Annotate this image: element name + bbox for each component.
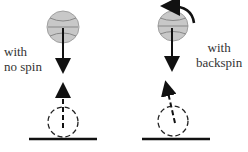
label-no-spin: with no spin (4, 44, 42, 74)
label-no-spin-line1: with (4, 44, 42, 59)
label-backspin: with backspin (196, 40, 242, 70)
label-backspin-line1: with (196, 40, 242, 55)
spin-diagram (0, 0, 248, 152)
label-no-spin-line2: no spin (4, 59, 42, 74)
label-backspin-line2: backspin (196, 55, 242, 70)
